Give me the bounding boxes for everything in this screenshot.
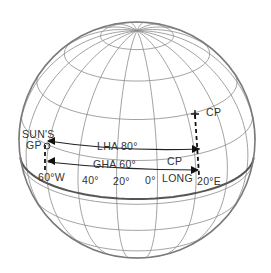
parallel-line [67,235,208,251]
gha-label: GHA 60° [93,158,136,170]
lon-40-label: 40° [82,174,99,186]
globe-diagram: SUN'S GP CP LHA 80° GHA 60° CP LONG 60°W… [0,0,271,273]
parallel-line [64,40,209,81]
meridian-line [137,31,227,248]
gp-label: GP [26,139,42,151]
cp-top-label: CP [206,106,221,118]
cp-plus-marker [191,110,199,118]
parallel-line [101,22,174,49]
lon-0-label: 0° [145,174,156,186]
lon-20-label: 20° [113,175,130,187]
gha-arrowhead-left [47,157,55,165]
meridian-line [137,31,158,258]
cp-mid-label: CP [167,155,182,167]
lon-60w-label: 60°W [38,171,65,183]
lon-20e-label: 20°E [197,175,221,187]
long-label: LONG [162,172,193,184]
parallel-line [22,115,253,161]
lha-label: LHA 80° [97,140,138,152]
lha-arrowhead-right [192,145,200,153]
